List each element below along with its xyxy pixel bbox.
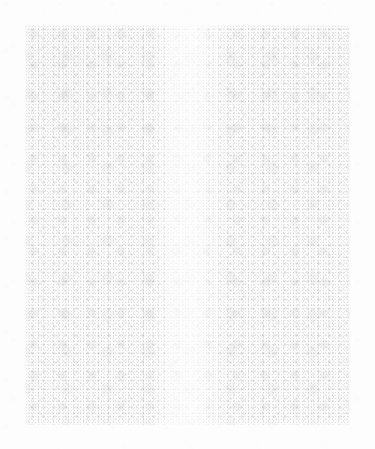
speckle-layer-fine [25,25,350,425]
speckle-density-upper-right [201,25,351,193]
panel-edge-feather [24,24,351,426]
speckle-layer-mid [25,25,350,425]
page-canvas [0,0,375,449]
texture-panel [25,25,350,425]
bright-vertical-band [150,25,230,425]
speckle-density-upper-left [25,25,175,185]
speckle-layer-coarse [25,25,350,425]
